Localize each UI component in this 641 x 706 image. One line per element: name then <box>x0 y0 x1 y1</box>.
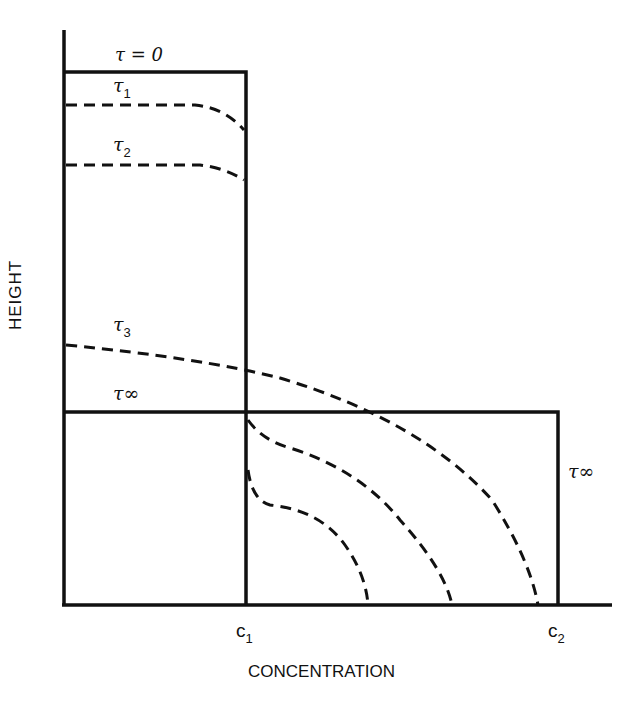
label-tau0: τ = 0 <box>115 44 163 65</box>
x-axis-label: CONCENTRATION <box>248 662 395 682</box>
label-tauinf-left: τ∞ <box>113 382 139 404</box>
curve-lower-mid <box>248 420 452 605</box>
curve-tau0 <box>64 72 246 605</box>
label-tau2: τ2 <box>113 133 131 155</box>
curve-tau1 <box>66 105 244 130</box>
label-tau3: τ3 <box>113 313 131 335</box>
c2-symbol: c <box>548 620 558 641</box>
curve-tau2 <box>66 165 244 180</box>
c2-subscript: 2 <box>558 631 565 646</box>
c1-symbol: c <box>236 620 246 641</box>
curve-tauinf <box>64 412 558 605</box>
label-tau1: τ1 <box>113 74 131 96</box>
tau3-symbol: τ <box>113 313 124 335</box>
tau2-symbol: τ <box>113 133 124 155</box>
curve-lower-inner <box>248 470 368 605</box>
tau2-subscript: 2 <box>124 145 131 160</box>
tau3-subscript: 3 <box>124 325 131 340</box>
y-axis-label: HEIGHT <box>6 260 26 330</box>
tau1-subscript: 1 <box>124 86 131 101</box>
c1-subscript: 1 <box>246 631 253 646</box>
tau1-symbol: τ <box>113 74 124 96</box>
chart-plot <box>0 0 641 706</box>
label-tauinf-right: τ∞ <box>568 460 594 482</box>
tick-c2: c2 <box>548 620 565 642</box>
tick-c1: c1 <box>236 620 253 642</box>
